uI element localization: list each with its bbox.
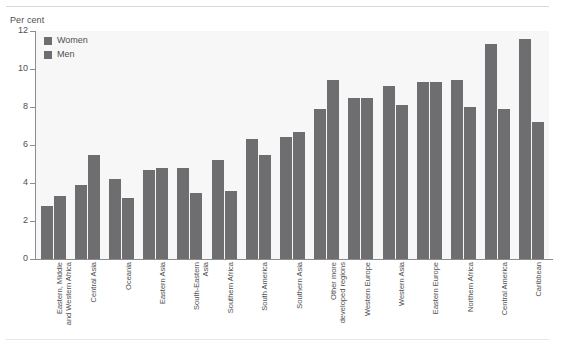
bar-men bbox=[430, 82, 442, 259]
x-axis-label: Eastern Asia bbox=[159, 262, 168, 342]
bar-women bbox=[109, 179, 121, 259]
bar-women bbox=[383, 86, 395, 259]
bar-women bbox=[246, 139, 258, 259]
bar-groups bbox=[36, 31, 549, 259]
x-axis-label: Central America bbox=[501, 262, 510, 342]
bar-men bbox=[54, 196, 66, 259]
bar-group bbox=[348, 31, 373, 259]
bar-group bbox=[246, 31, 271, 259]
bar-men bbox=[327, 80, 339, 259]
bar-group bbox=[177, 31, 202, 259]
bar-women bbox=[451, 80, 463, 259]
bar-women bbox=[212, 160, 224, 259]
bar-men bbox=[498, 109, 510, 259]
y-tick-label: 10 bbox=[8, 63, 28, 73]
x-axis-label: Eastern Europe bbox=[432, 262, 441, 342]
bar-group bbox=[451, 31, 476, 259]
bar-women bbox=[41, 206, 53, 259]
x-axis-label: Southern Africa bbox=[227, 262, 236, 342]
x-axis-label: South America bbox=[261, 262, 270, 342]
bar-group bbox=[485, 31, 510, 259]
y-tick-label: 8 bbox=[8, 101, 28, 111]
bar-men bbox=[464, 107, 476, 259]
bar-women bbox=[485, 44, 497, 259]
bar-group bbox=[519, 31, 544, 259]
x-axis-label: Western Asia bbox=[398, 262, 407, 342]
x-axis-label: Caribbean bbox=[535, 262, 544, 342]
x-axis-labels: Eastern, Middle and Western AfricaCentra… bbox=[36, 262, 549, 346]
x-axis-label: Northern Africa bbox=[467, 262, 476, 342]
x-axis-label: Southern Asia bbox=[296, 262, 305, 342]
bar-men bbox=[293, 132, 305, 259]
bar-group bbox=[383, 31, 408, 259]
bar-group bbox=[280, 31, 305, 259]
bar-men bbox=[532, 122, 544, 259]
top-divider bbox=[6, 6, 549, 7]
chart-page: Per cent 024681012 Women Men Eastern, Mi… bbox=[0, 0, 561, 346]
y-tick-label: 0 bbox=[8, 253, 28, 263]
x-axis-label: South-Eastern Asia bbox=[193, 262, 210, 342]
bar-women bbox=[417, 82, 429, 259]
y-axis-unit-label: Per cent bbox=[10, 15, 44, 25]
x-axis-label: Oceania bbox=[125, 262, 134, 342]
bar-group bbox=[314, 31, 339, 259]
bar-women bbox=[314, 109, 326, 259]
bar-men bbox=[225, 191, 237, 259]
bar-men bbox=[190, 193, 202, 260]
bar-women bbox=[177, 168, 189, 259]
y-tick-label: 6 bbox=[8, 139, 28, 149]
bar-group bbox=[41, 31, 66, 259]
bar-group bbox=[417, 31, 442, 259]
bar-women bbox=[75, 185, 87, 259]
x-axis-line bbox=[30, 259, 553, 260]
bar-women bbox=[143, 170, 155, 259]
bar-men bbox=[88, 155, 100, 260]
x-axis-label: Eastern, Middle and Western Africa bbox=[56, 262, 73, 342]
x-axis-label: Other more developed regions bbox=[330, 262, 347, 342]
bar-men bbox=[259, 155, 271, 260]
x-axis-label: Western Europe bbox=[364, 262, 373, 342]
bar-men bbox=[361, 98, 373, 260]
bar-men bbox=[122, 198, 134, 259]
y-tick-label: 2 bbox=[8, 215, 28, 225]
bar-men bbox=[396, 105, 408, 259]
bar-group bbox=[75, 31, 100, 259]
y-tick-mark bbox=[30, 259, 36, 260]
bar-group bbox=[212, 31, 237, 259]
bar-women bbox=[348, 98, 360, 260]
bar-men bbox=[156, 168, 168, 259]
bar-women bbox=[519, 39, 531, 259]
bar-group bbox=[143, 31, 168, 259]
y-tick-label: 4 bbox=[8, 177, 28, 187]
bar-group bbox=[109, 31, 134, 259]
bar-women bbox=[280, 137, 292, 259]
x-axis-label: Central Asia bbox=[90, 262, 99, 342]
y-tick-label: 12 bbox=[8, 25, 28, 35]
